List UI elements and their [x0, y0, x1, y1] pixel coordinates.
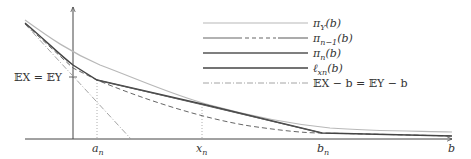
- legend-label-pi-n: πn(b): [312, 47, 341, 62]
- x-tick-label-bn: bn: [317, 142, 329, 157]
- legend-label-pi-n-minus-1: πn−1(b): [312, 32, 353, 47]
- x-tick-label-an: an: [92, 142, 104, 157]
- diagram: 𝔼X = 𝔼Y an xn bn b πY(b) πn−1(b) πn(b) ℓ…: [0, 0, 471, 159]
- legend-label-l-xn: ℓxn(b): [313, 62, 343, 77]
- x-tick-label-xn: xn: [196, 142, 207, 157]
- legend-label-pi-Y: πY(b): [312, 17, 341, 32]
- legend: πY(b) πn−1(b) πn(b) ℓxn(b) 𝔼X − b = 𝔼Y −…: [203, 17, 408, 90]
- x-axis-label: b: [448, 142, 455, 155]
- legend-label-mean-minus-b: 𝔼X − b = 𝔼Y − b: [313, 77, 408, 90]
- line-l-xn: [97, 80, 322, 133]
- y-tick-label: 𝔼X = 𝔼Y: [14, 71, 63, 84]
